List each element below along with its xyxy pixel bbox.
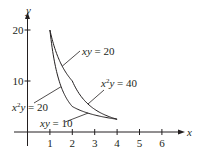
annotation-label: xy = 10 [39, 117, 73, 129]
x-axis-arrow-icon [178, 130, 185, 135]
x-tick-label: 4 [114, 137, 120, 149]
y-axis-label: y [25, 4, 31, 16]
axes: 1234561020 [13, 12, 186, 149]
x-tick-label: 2 [70, 137, 76, 149]
x-tick-label: 5 [137, 137, 143, 149]
x-axis-label: x [186, 126, 192, 138]
annotation-leader [88, 90, 104, 104]
chart: 1234561020 xy = 20x2y = 40x2y = 20xy = 1… [0, 0, 203, 158]
annotation-label: x2y = 20 [11, 101, 48, 113]
annotation-label: xy = 20 [81, 45, 115, 57]
y-tick-label: 20 [13, 24, 25, 36]
y-tick-label: 10 [13, 75, 25, 87]
annotation-label: x2y = 40 [100, 77, 137, 89]
annotation-leader [62, 51, 80, 66]
annotations: xy = 20x2y = 40x2y = 20xy = 10 [11, 45, 137, 129]
curves [50, 30, 117, 119]
x-tick-label: 3 [92, 137, 98, 149]
x-tick-label: 6 [159, 137, 165, 149]
x-tick-label: 1 [47, 137, 53, 149]
